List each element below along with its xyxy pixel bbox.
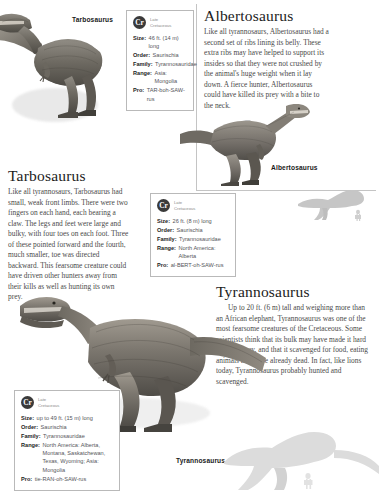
cretaceous-badge-icon: Cr [133,16,146,29]
fact-range: Range: North America: Alberta [157,244,229,261]
fact-family-label: Family: [133,60,155,68]
tarbosaurus-caption: Tarbosaurus [72,16,113,23]
era-label: Late Cretaceous [174,200,195,211]
encyclopedia-page: Tarbosaurus Cr Late Cretaceous Size: 46 … [0,0,379,492]
tyrannosaurus-scale-silhouette [214,424,379,492]
fact-order-value: Saurischia [177,226,229,234]
albertosaurus-heading: Albertosaurus [204,8,330,24]
fact-size-label: Size: [21,414,37,422]
fact-pronunciation-value: al-BERT-oh-SAW-rus [171,261,229,269]
albertosaurus-body: Like all tyrannosaurs, Albertosaurus had… [204,27,330,111]
era-row: Cr Late Cretaceous [157,199,229,212]
fact-range: Range: North America: Alberta, Montana, … [21,441,113,475]
fact-range-label: Range: [133,69,154,86]
cretaceous-badge-icon: Cr [21,396,34,409]
fact-family-value: Tyrannosauridae [155,60,197,68]
fact-order: Order: Saurischia [133,51,187,59]
era-row: Cr Late Cretaceous [21,396,113,409]
cretaceous-badge-icon: Cr [157,199,170,212]
fact-size-label: Size: [157,217,173,225]
fact-pronunciation: Pro: tie-RAN-oh-SAW-rus [21,475,113,483]
fact-range-label: Range: [157,244,178,261]
fact-order-label: Order: [21,423,41,431]
fact-pronunciation-value: tie-RAN-oh-SAW-rus [35,475,113,483]
fact-size: Size: up to 49 ft. (15 m) long [21,414,113,422]
fact-family-label: Family: [21,432,43,440]
albertosaurus-article: Albertosaurus Like all tyrannosaurs, Alb… [204,8,330,111]
albertosaurus-scale-silhouette [296,186,374,224]
fact-family: Family: Tyrannosauridae [21,432,113,440]
fact-family: Family: Tyrannosauridae [157,235,229,243]
albertosaurus-caption: Albertosaurus [271,164,318,171]
fact-pronunciation-label: Pro: [21,475,35,483]
fact-family-label: Family: [157,235,179,243]
albertosaurus-illustration [180,100,310,186]
fact-pronunciation-label: Pro: [157,261,171,269]
fact-order-value: Saurischia [153,51,187,59]
fact-size-value: 46 ft. (14 m) long [149,34,187,51]
fact-order-value: Saurischia [41,423,113,431]
fact-size: Size: 26 ft. (8 m) long [157,217,229,225]
fact-size-value: 26 ft. (8 m) long [173,217,229,225]
fact-family-value: Tyrannosauridae [179,235,229,243]
fact-pronunciation: Pro: al-BERT-oh-SAW-rus [157,261,229,269]
fact-range-label: Range: [21,441,42,475]
fact-size-value: up to 49 ft. (15 m) long [37,414,113,422]
tyrannosaurus-fact-box: Cr Late Cretaceous Size: up to 49 ft. (1… [14,390,120,491]
albertosaurus-fact-box: Cr Late Cretaceous Size: 26 ft. (8 m) lo… [150,193,236,277]
fact-family: Family: Tyrannosauridae [133,60,187,68]
tarbosaurus-fact-box: Cr Late Cretaceous Size: 46 ft. (14 m) l… [126,10,194,111]
fact-size-label: Size: [133,34,149,51]
fact-pronunciation-label: Pro: [133,86,147,103]
fact-order: Order: Saurischia [157,226,229,234]
fact-range: Range: Asia: Mongolia [133,69,187,86]
fact-range-value: Asia: Mongolia [154,69,187,86]
fact-range-value: North America: Alberta, Montana, Saskatc… [42,441,113,475]
fact-order: Order: Saurischia [21,423,113,431]
tarbosaurus-heading: Tarbosaurus [8,168,130,184]
fact-size: Size: 46 ft. (14 m) long [133,34,187,51]
fact-order-label: Order: [157,226,177,234]
fact-order-label: Order: [133,51,153,59]
fact-pronunciation: Pro: TAR-boh-SAW-rus [133,86,187,103]
era-row: Cr Late Cretaceous [133,16,187,29]
era-label: Late Cretaceous [150,17,171,28]
fact-family-value: Tyrannosauridae [43,432,113,440]
fact-range-value: North America: Alberta [178,244,229,261]
era-label: Late Cretaceous [38,397,59,408]
